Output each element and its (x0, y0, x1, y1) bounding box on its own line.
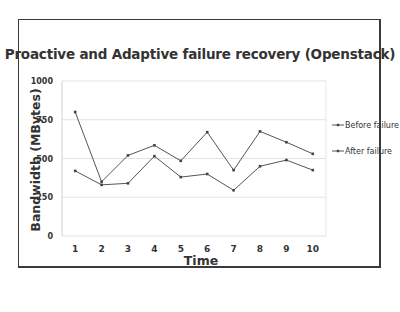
data-point (206, 173, 209, 176)
series-line (75, 112, 313, 182)
legend-marker-icon (337, 124, 339, 126)
data-point (232, 169, 235, 172)
data-point (153, 144, 156, 147)
legend-label: Before failure (345, 121, 399, 130)
data-point (259, 130, 262, 133)
data-point (180, 160, 183, 163)
data-point (285, 141, 288, 144)
x-tick-label: 4 (151, 244, 157, 254)
x-axis-label: Time (184, 253, 218, 268)
y-tick-label: 0 (47, 232, 53, 241)
data-point (285, 159, 288, 162)
x-tick-label: 1 (72, 244, 78, 254)
data-point (259, 165, 262, 168)
y-tick-label: 1000 (31, 77, 54, 86)
data-point (127, 182, 130, 185)
data-point (232, 189, 235, 192)
data-series (74, 111, 314, 192)
legend: Before failureAfter failure (332, 121, 399, 156)
data-point (180, 176, 183, 179)
x-tick-label: 2 (98, 244, 104, 254)
data-point (74, 111, 77, 114)
gridlines (62, 81, 326, 236)
data-point (100, 180, 103, 183)
data-point (127, 154, 130, 157)
data-point (100, 184, 103, 187)
data-point (74, 170, 77, 173)
y-axis-label: Bandwidth (MBytes) (28, 88, 43, 231)
data-point (206, 131, 209, 134)
data-point (153, 155, 156, 158)
x-tick-label: 7 (230, 244, 236, 254)
data-point (312, 169, 315, 172)
series-before-failure (74, 111, 314, 183)
line-chart: 02505007501000 12345678910 Before failur… (0, 0, 400, 312)
x-tick-label: 8 (257, 244, 263, 254)
x-tick-label: 9 (283, 244, 289, 254)
legend-marker-icon (337, 150, 339, 152)
x-tick-label: 10 (307, 244, 320, 254)
data-point (312, 153, 315, 156)
legend-label: After failure (345, 147, 392, 156)
x-tick-label: 3 (125, 244, 131, 254)
